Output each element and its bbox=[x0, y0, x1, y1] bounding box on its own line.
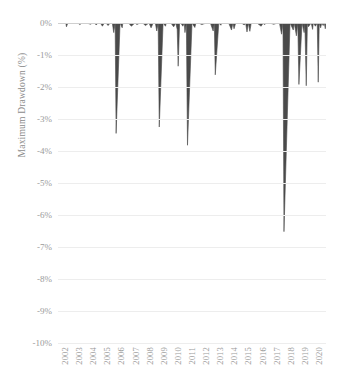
x-tick-label: 2018 bbox=[286, 347, 296, 365]
gridline-y bbox=[58, 247, 326, 248]
y-tick-label: -4% bbox=[12, 146, 52, 156]
x-tick-label: 2003 bbox=[74, 347, 84, 365]
x-tick-label: 2016 bbox=[258, 347, 268, 365]
x-tick-label: 2005 bbox=[102, 347, 112, 365]
x-tick-label: 2011 bbox=[187, 347, 197, 365]
x-tick-label: 2009 bbox=[159, 347, 169, 365]
x-tick-label: 2004 bbox=[88, 347, 98, 365]
x-tick-label: 2019 bbox=[300, 347, 310, 365]
y-tick-label: -10% bbox=[12, 338, 52, 348]
y-tick-label: -5% bbox=[12, 178, 52, 188]
x-tick-label: 2015 bbox=[243, 347, 253, 365]
drawdown-chart: Maximum Drawdown (%) 0%-1%-2%-3%-4%-5%-6… bbox=[0, 0, 345, 392]
gridline-y bbox=[58, 55, 326, 56]
y-tick-label: -7% bbox=[12, 242, 52, 252]
y-axis-tick-labels: 0%-1%-2%-3%-4%-5%-6%-7%-8%-9%-10% bbox=[8, 0, 52, 392]
x-tick-label: 2017 bbox=[272, 347, 282, 365]
gridline-y bbox=[58, 311, 326, 312]
x-tick-label: 2010 bbox=[173, 347, 183, 365]
y-tick-label: -3% bbox=[12, 114, 52, 124]
y-tick-label: -6% bbox=[12, 210, 52, 220]
y-tick-label: 0% bbox=[12, 18, 52, 28]
y-tick-label: -1% bbox=[12, 50, 52, 60]
gridline-y bbox=[58, 183, 326, 184]
gridline-y bbox=[58, 23, 326, 24]
x-tick-label: 2006 bbox=[116, 347, 126, 365]
x-tick-label: 2020 bbox=[314, 347, 324, 365]
gridline-y bbox=[58, 119, 326, 120]
x-tick-label: 2012 bbox=[201, 347, 211, 365]
x-tick-label: 2013 bbox=[215, 347, 225, 365]
y-tick-label: -2% bbox=[12, 82, 52, 92]
y-tick-label: -8% bbox=[12, 274, 52, 284]
x-tick-label: 2014 bbox=[229, 347, 239, 365]
x-tick-label: 2007 bbox=[131, 347, 141, 365]
gridline-y bbox=[58, 215, 326, 216]
gridline-y bbox=[58, 87, 326, 88]
x-tick-label: 2002 bbox=[60, 347, 70, 365]
gridline-y bbox=[58, 279, 326, 280]
gridline-y bbox=[58, 151, 326, 152]
x-tick-label: 2008 bbox=[145, 347, 155, 365]
gridline-y bbox=[58, 343, 326, 344]
y-tick-label: -9% bbox=[12, 306, 52, 316]
